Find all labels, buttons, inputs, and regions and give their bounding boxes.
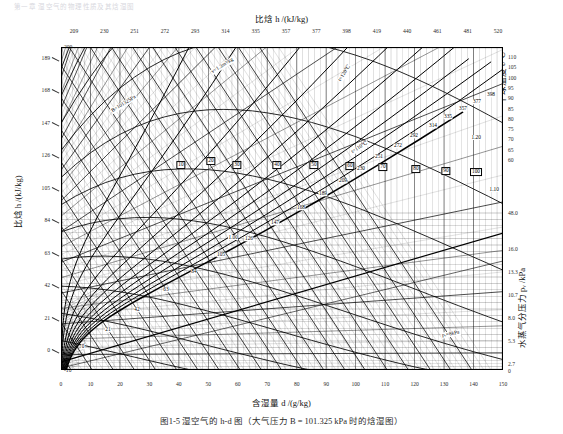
label-enthalpy-272: 272 xyxy=(393,143,402,148)
bottom-tick-150: 150 xyxy=(499,381,507,387)
left-enthalpy-tick-42: 42 xyxy=(30,282,50,288)
top-tick-272: 272 xyxy=(161,28,169,34)
label-relative-humidity-70: 70 xyxy=(378,163,387,171)
left-enthalpy-tick-mark xyxy=(52,219,60,224)
label-enthalpy-398: 398 xyxy=(486,92,495,97)
left-enthalpy-tick-189: 189 xyxy=(30,55,50,61)
right-temperature-tick-100: 100 xyxy=(508,75,516,81)
label-enthalpy-189: 189 xyxy=(318,191,327,196)
label-enthalpy-147: 147 xyxy=(270,220,279,225)
right-temperature-tick-105: 105 xyxy=(508,64,516,70)
bottom-tick-90: 90 xyxy=(323,381,329,387)
chart-svg xyxy=(61,47,503,370)
right-temperature-tick-65: 65 xyxy=(508,147,514,153)
top-tick-440: 440 xyxy=(403,28,411,34)
top-tick-357: 357 xyxy=(282,28,290,34)
page-header-note: 第一章 湿空气的物理性质及其焓湿图 xyxy=(14,1,134,11)
right-temperature-tick-70: 70 xyxy=(508,136,514,142)
right-pv-tick-10-7: 10.7 xyxy=(508,292,518,298)
right-pv-tick-2-7: 2.7 xyxy=(508,361,515,367)
left-enthalpy-tick-147: 147 xyxy=(30,120,50,126)
top-tick-481: 481 xyxy=(464,28,472,34)
label-enthalpy-168: 168 xyxy=(296,205,305,210)
label-enthalpy-251: 251 xyxy=(374,154,383,159)
top-axis-title: 比焓 h /(kJ/kg) xyxy=(0,12,563,24)
label-enthalpy-63: 63 xyxy=(163,287,169,292)
label-relative-humidity-100: 100 xyxy=(470,168,482,176)
label-relative-humidity-30: 30 xyxy=(232,161,241,169)
bottom-axis-title: 含湿量 d /(g/kg) xyxy=(0,396,563,408)
bottom-tick-140: 140 xyxy=(469,381,477,387)
label-specific-volume-1-00: 1.00 xyxy=(228,235,238,240)
right-pv-tick-48-0: 48.0 xyxy=(508,210,518,216)
plot-background xyxy=(61,47,503,370)
bottom-tick-0: 0 xyxy=(60,381,63,387)
left-enthalpy-tick-mark xyxy=(52,284,60,289)
bottom-tick-50: 50 xyxy=(206,381,212,387)
bottom-tick-30: 30 xyxy=(147,381,153,387)
left-enthalpy-tick-63: 63 xyxy=(30,250,50,256)
left-enthalpy-tick-84: 84 xyxy=(30,217,50,223)
chart-plot-area: v=1.3m³/kg1.201.101.00t=120℃t=110℃B=1013… xyxy=(61,47,503,370)
top-tick-398: 398 xyxy=(342,28,350,34)
top-tick-230: 230 xyxy=(100,28,108,34)
top-tick-209: 209 xyxy=(70,28,78,34)
top-tick-251: 251 xyxy=(130,28,138,34)
top-tick-419: 419 xyxy=(373,28,381,34)
label-relative-humidity-50: 50 xyxy=(309,161,318,169)
left-enthalpy-tick-mark xyxy=(52,252,60,257)
label-relative-humidity-90: 90 xyxy=(441,167,450,175)
label-enthalpy-377: 377 xyxy=(472,99,481,104)
bottom-tick-60: 60 xyxy=(235,381,241,387)
top-tick-377: 377 xyxy=(312,28,320,34)
right-temperature-tick-110: 110 xyxy=(508,54,516,60)
right-pv-tick-13-3: 13.3 xyxy=(508,269,518,275)
label-enthalpy-357: 357 xyxy=(458,106,467,111)
label-relative-humidity-60: 60 xyxy=(345,162,354,170)
label-enthalpy-292: 292 xyxy=(409,133,418,138)
left-enthalpy-tick-mark xyxy=(52,57,60,62)
label-specific-volume-1-20: 1.20 xyxy=(471,135,481,140)
label-enthalpy-42: 42 xyxy=(134,307,140,312)
right-pv-tick-16-0: 16.0 xyxy=(508,246,518,252)
left-enthalpy-tick-mark xyxy=(52,89,60,94)
bottom-tick-110: 110 xyxy=(381,381,389,387)
label-relative-humidity-80: 80 xyxy=(411,165,420,173)
bottom-tick-10: 10 xyxy=(88,381,94,387)
left-enthalpy-tick-21: 21 xyxy=(30,315,50,321)
right-temperature-tick-60: 60 xyxy=(508,157,514,163)
figure-caption: 图1-5 湿空气的 h-d 图（大气压力 B = 101.325 kPa 时的焓… xyxy=(0,414,563,426)
left-enthalpy-tick-126: 126 xyxy=(30,152,50,158)
top-tick-335: 335 xyxy=(252,28,260,34)
left-enthalpy-tick-168: 168 xyxy=(30,87,50,93)
right-temperature-tick-80: 80 xyxy=(508,116,514,122)
label-enthalpy-84: 84 xyxy=(191,269,197,274)
label-enthalpy-335: 335 xyxy=(443,114,452,119)
bottom-tick-70: 70 xyxy=(264,381,270,387)
top-tick-293: 293 xyxy=(191,28,199,34)
label-relative-humidity-20: 20 xyxy=(206,157,215,165)
label-enthalpy-230: 230 xyxy=(356,166,365,171)
right-pv-tick-8-0: 8.0 xyxy=(508,315,515,321)
left-enthalpy-tick-105: 105 xyxy=(30,185,50,191)
left-enthalpy-tick-mark xyxy=(52,349,60,354)
right-vapour-pressure-axis-title: 水蒸气分压力 pᵥ /kPa xyxy=(515,268,527,348)
right-temperature-tick-75: 75 xyxy=(508,126,514,132)
right-pv-tick-0: 0 xyxy=(508,368,511,374)
bottom-tick-120: 120 xyxy=(410,381,418,387)
bottom-tick-80: 80 xyxy=(294,381,300,387)
bottom-tick-20: 20 xyxy=(117,381,123,387)
left-enthalpy-tick-mark xyxy=(52,187,60,192)
psychrometric-chart-page: 第一章 湿空气的物理性质及其焓湿图 比焓 h /(kJ/kg) 含湿量 d /(… xyxy=(0,0,563,434)
label-specific-volume-1-10: 1.10 xyxy=(489,187,499,192)
top-tick-314: 314 xyxy=(221,28,229,34)
top-tick-520: 520 xyxy=(494,28,502,34)
right-temperature-tick-95: 95 xyxy=(508,85,514,91)
label-enthalpy-209: 209 xyxy=(338,178,347,183)
label-enthalpy-105: 105 xyxy=(216,252,225,257)
right-temperature-tick-90: 90 xyxy=(508,95,514,101)
right-temperature-tick-85: 85 xyxy=(508,106,514,112)
bottom-tick-40: 40 xyxy=(176,381,182,387)
label-enthalpy-21: 21 xyxy=(105,327,111,332)
top-tick-461: 461 xyxy=(433,28,441,34)
